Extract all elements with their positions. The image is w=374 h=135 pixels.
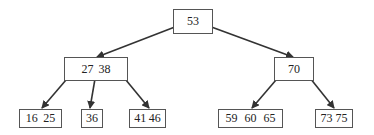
node-41-46: 41 46 [129, 109, 166, 128]
node-key: 53 [187, 14, 199, 29]
node-36: 36 [81, 109, 103, 128]
node-key: 41 [134, 111, 146, 126]
node-key: 46 [149, 111, 161, 126]
node-key: 16 [26, 111, 38, 126]
edge-53-to-27-38 [97, 25, 180, 57]
node-key: 25 [43, 111, 55, 126]
node-key: 59 [226, 111, 238, 126]
node-key: 70 [288, 62, 300, 77]
node-16-25: 16 25 [19, 109, 62, 128]
edge-53-to-70 [206, 25, 293, 57]
node-root-53: 53 [173, 9, 213, 34]
node-key: 36 [86, 111, 98, 126]
node-key: 75 [336, 111, 348, 126]
node-27-38: 27 38 [64, 57, 128, 81]
node-key: 73 [321, 111, 333, 126]
node-59-60-65: 59 60 65 [218, 109, 283, 128]
node-key: 27 [82, 62, 94, 77]
node-key: 60 [245, 111, 257, 126]
node-73-75: 73 75 [315, 109, 353, 128]
node-key: 65 [264, 111, 276, 126]
node-key: 38 [99, 62, 111, 77]
node-70: 70 [274, 57, 314, 81]
